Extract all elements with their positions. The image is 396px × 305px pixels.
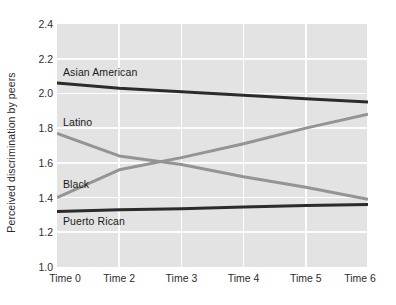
y-tick-label: 1.2 (7, 226, 53, 238)
x-tick-label: Time 4 (228, 272, 260, 284)
y-axis-tick-labels: 2.42.22.01.81.61.41.21.0 (0, 24, 53, 267)
y-tick-label: 1.8 (7, 122, 53, 134)
y-tick-label: 1.4 (7, 192, 53, 204)
series-lines (57, 24, 368, 267)
x-tick-label: Time 2 (103, 272, 135, 284)
x-tick-label: Time 0 (49, 272, 81, 284)
x-axis-tick-labels: Time 0Time 2Time 3Time 4Time 5Time 6 (57, 272, 368, 292)
series-line (57, 205, 368, 212)
series-line (57, 133, 368, 199)
x-tick-label: Time 3 (166, 272, 198, 284)
y-tick-label: 2.2 (7, 53, 53, 65)
y-tick-label: 1.0 (7, 261, 53, 273)
y-tick-label: 2.4 (7, 18, 53, 30)
plot-area: Asian AmericanLatinoBlackPuerto Rican (57, 24, 368, 267)
chart-figure: Perceived discrimination by peers 2.42.2… (0, 0, 396, 305)
series-line (57, 114, 368, 197)
y-tick-label: 2.0 (7, 87, 53, 99)
series-line (57, 83, 368, 102)
y-tick-label: 1.6 (7, 157, 53, 169)
x-tick-label: Time 6 (344, 272, 376, 284)
x-tick-label: Time 5 (290, 272, 322, 284)
